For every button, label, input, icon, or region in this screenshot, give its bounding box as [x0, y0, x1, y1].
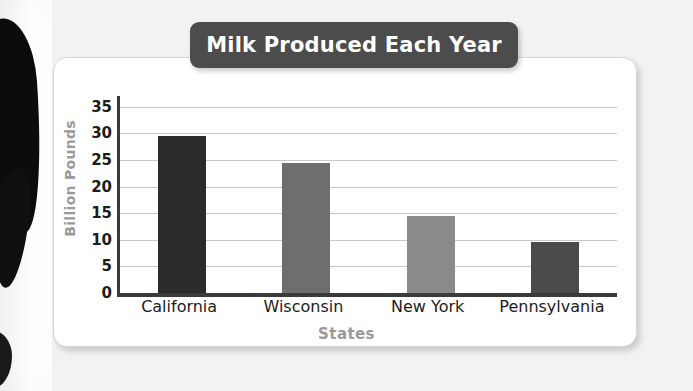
- bar: [407, 216, 455, 293]
- bars-layer: [120, 96, 617, 293]
- chart-title-banner: Milk Produced Each Year: [190, 22, 518, 68]
- x-axis-tick-label: California: [141, 297, 217, 316]
- x-axis-title: States: [0, 325, 693, 343]
- y-axis-tick-label: 35: [82, 98, 112, 116]
- chart-title: Milk Produced Each Year: [206, 33, 502, 57]
- y-axis-tick-label: 0: [82, 284, 112, 302]
- x-axis-tick-label: Pennsylvania: [499, 297, 604, 316]
- bar: [282, 163, 330, 293]
- y-axis-tick-label: 25: [82, 151, 112, 169]
- y-axis-title: Billion Pounds: [62, 120, 80, 237]
- x-axis-tick-labels: CaliforniaWisconsinNew YorkPennsylvania: [117, 297, 614, 321]
- y-axis-tick-label: 15: [82, 204, 112, 222]
- y-axis-tick-labels: 05101520253035: [82, 96, 112, 294]
- plot-area: [117, 96, 617, 297]
- y-axis-tick-label: 10: [82, 231, 112, 249]
- x-axis-tick-label: New York: [391, 297, 464, 316]
- y-axis-tick-label: 20: [82, 178, 112, 196]
- x-axis-tick-label: Wisconsin: [263, 297, 343, 316]
- bar: [531, 242, 579, 293]
- y-axis-tick-label: 30: [82, 124, 112, 142]
- bar: [158, 136, 206, 293]
- y-axis-tick-label: 5: [82, 257, 112, 275]
